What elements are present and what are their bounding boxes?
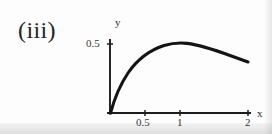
y-axis-label: y — [115, 16, 121, 28]
y-tick-label-0-5: 0.5 — [86, 37, 100, 49]
plot-area: y x 0.5 0.5 1 2 — [0, 0, 272, 134]
figure-container: (iii) y x 0.5 0.5 1 2 — [0, 0, 272, 134]
x-tick-label-0-5: 0.5 — [136, 116, 150, 128]
x-axis-label: x — [257, 107, 263, 119]
x-tick-label-1: 1 — [177, 116, 183, 128]
curve-path — [111, 43, 249, 113]
x-tick-label-2: 2 — [245, 116, 251, 128]
